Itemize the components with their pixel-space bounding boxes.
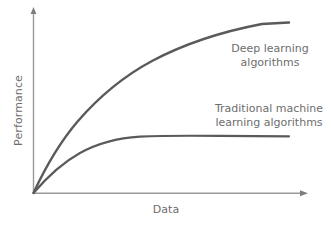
x-axis-label: Data <box>120 203 212 216</box>
annotation-deep-learning-line1: Deep learning <box>216 42 324 56</box>
series-curve-traditional-ml <box>34 136 290 193</box>
y-axis-arrowhead-icon <box>31 7 37 14</box>
annotation-traditional-ml-line2: learning algorithms <box>208 116 330 130</box>
chart-container: Performance Data Deep learning algorithm… <box>0 0 332 228</box>
annotation-deep-learning: Deep learning algorithms <box>216 42 324 70</box>
annotation-traditional-ml: Traditional machine learning algorithms <box>208 102 330 130</box>
annotation-traditional-ml-line1: Traditional machine <box>208 102 330 116</box>
x-axis-arrowhead-icon <box>300 190 308 196</box>
annotation-deep-learning-line2: algorithms <box>216 56 324 70</box>
y-axis-label: Performance <box>12 66 25 156</box>
